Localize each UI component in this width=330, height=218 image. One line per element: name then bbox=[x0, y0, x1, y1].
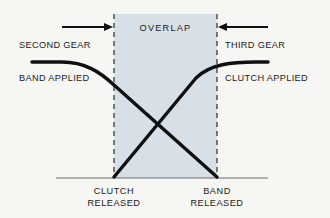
band-applied-label: BAND APPLIED bbox=[19, 74, 90, 83]
clutch-applied-label: CLUTCH APPLIED bbox=[225, 74, 308, 83]
right-overlap-arrow-icon bbox=[218, 23, 268, 31]
transmission-overlap-diagram: OVERLAP SECOND GEAR THIRD GEAR BAND APPL… bbox=[0, 0, 330, 218]
band-released-label: BAND RELEASED bbox=[167, 186, 267, 209]
third-gear-label: THIRD GEAR bbox=[225, 41, 285, 50]
band-released-line-2: RELEASED bbox=[167, 198, 267, 210]
overlap-label: OVERLAP bbox=[114, 24, 217, 33]
second-gear-label: SECOND GEAR bbox=[19, 41, 91, 50]
band-released-line-1: BAND bbox=[167, 186, 267, 198]
clutch-released-line-2: RELEASED bbox=[64, 198, 164, 210]
overlap-region bbox=[114, 14, 217, 178]
clutch-released-label: CLUTCH RELEASED bbox=[64, 186, 164, 209]
clutch-released-line-1: CLUTCH bbox=[64, 186, 164, 198]
left-overlap-arrow-icon bbox=[62, 23, 113, 31]
